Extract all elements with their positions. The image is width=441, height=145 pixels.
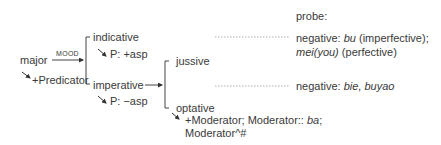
probe-indicative-line2: mei(you) (perfective) — [296, 46, 397, 58]
realization-optative-line1: +Moderator; Moderator:: ba; — [185, 114, 322, 126]
realization-indicative: P: +asp — [110, 48, 148, 60]
system-name-mood: MOOD — [56, 50, 79, 58]
probe-jussive: negative: bie, buyao — [296, 80, 394, 92]
realization-optative-line2: Moderator^# — [185, 127, 246, 139]
root-realization: +Predicator — [32, 74, 89, 86]
feature-optative: optative — [176, 102, 215, 114]
probe-indicative-line1: negative: bu (imperfective); — [296, 32, 429, 44]
probe-heading: probe: — [296, 10, 327, 22]
feature-indicative: indicative — [93, 31, 139, 43]
feature-jussive: jussive — [176, 55, 210, 67]
realization-imperative: P: −asp — [110, 95, 148, 107]
feature-imperative: imperative — [93, 79, 144, 91]
root-feature: major — [20, 54, 48, 66]
